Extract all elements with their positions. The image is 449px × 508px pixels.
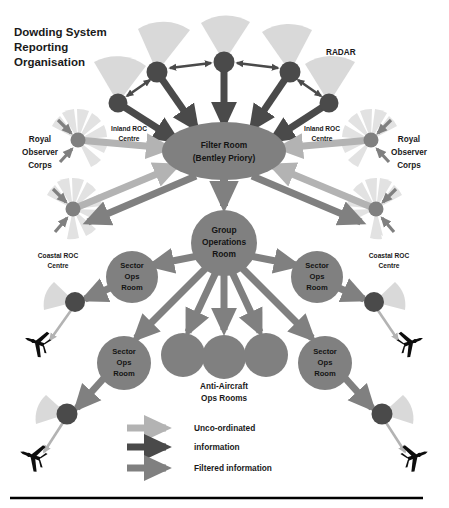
coastal-roc-right-line1: Coastal ROC: [369, 252, 410, 259]
filter-room-label-line2: (Bentley Priory): [193, 153, 256, 163]
page-title-line2: Reporting: [14, 41, 68, 53]
coastal-roc-node-right[interactable]: [369, 202, 384, 217]
legend-label-1: Unco-ordinated: [194, 423, 255, 433]
royal-observer-corps-left-line3: Corps: [28, 161, 52, 170]
sector-ops-3-line2: Ops: [117, 358, 132, 367]
radar-station-3[interactable]: [214, 52, 235, 73]
anti-aircraft-room-1[interactable]: [161, 333, 205, 377]
group-ops-label-line3: Room: [212, 249, 236, 259]
sector-ops-4-line3: Room: [314, 369, 336, 378]
diagram-canvas: Filter Room (Bentley Priory) Group Opera…: [0, 0, 449, 508]
airfield-node-2[interactable]: [57, 404, 78, 425]
sector-ops-3-line3: Room: [113, 369, 135, 378]
aircraft-icon-1: [21, 326, 54, 360]
inland-roc-right-line2: Centre: [312, 135, 333, 142]
royal-observer-corps-right-line2: Observer: [391, 148, 428, 157]
inland-roc-right-line1: Inland ROC: [304, 125, 340, 132]
coastal-roc-left-line1: Coastal ROC: [38, 252, 79, 259]
sector-ops-2-line1: Sector: [305, 261, 329, 270]
airfield-node-4[interactable]: [372, 404, 393, 425]
sector-ops-1-line1: Sector: [120, 261, 144, 270]
royal-observer-corps-right-line3: Corps: [397, 161, 421, 170]
legend: Unco-ordinated information Filtered info…: [127, 423, 272, 473]
inland-roc-node-right[interactable]: [364, 133, 379, 148]
legend-label-2: information: [194, 442, 240, 452]
radar-station-2[interactable]: [147, 62, 168, 83]
radar-station-1[interactable]: [109, 94, 128, 113]
filter-room-label-line1: Filter Room: [201, 140, 248, 150]
inland-roc-left-line2: Centre: [119, 135, 140, 142]
sector-ops-1-line2: Ops: [125, 272, 140, 281]
sector-ops-3-line1: Sector: [112, 347, 136, 356]
anti-aircraft-room-2[interactable]: [202, 335, 246, 379]
aircraft-icon-4: [398, 439, 432, 474]
filter-room-node[interactable]: Filter Room (Bentley Priory): [162, 122, 286, 180]
inland-roc-left-line1: Inland ROC: [111, 125, 147, 132]
page-title-line1: Dowding System: [14, 26, 107, 38]
anti-aircraft-label-line2: Ops Rooms: [201, 394, 247, 403]
legend-label-3: Filtered information: [194, 463, 272, 473]
group-ops-label-line2: Operations: [202, 237, 247, 247]
group-operations-room-node[interactable]: Group Operations Room: [191, 210, 257, 276]
airfield-node-1[interactable]: [65, 292, 85, 312]
royal-observer-corps-left-line1: Royal: [29, 135, 51, 144]
anti-aircraft-room-3[interactable]: [244, 333, 288, 377]
sector-ops-4-line1: Sector: [313, 347, 337, 356]
royal-observer-corps-right-line1: Royal: [398, 135, 420, 144]
aircraft-icon-3: [395, 326, 428, 360]
radar-label: RADAR: [326, 48, 356, 57]
sector-ops-1-line3: Room: [121, 283, 143, 292]
anti-aircraft-label-line1: Anti-Aircraft: [200, 382, 248, 391]
sector-ops-room-node-4[interactable]: Sector Ops Room: [298, 336, 352, 390]
sector-ops-4-line2: Ops: [318, 358, 333, 367]
anti-aircraft-ops-rooms[interactable]: [161, 333, 288, 379]
radar-station-4[interactable]: [280, 62, 301, 83]
dowding-system-diagram: Filter Room (Bentley Priory) Group Opera…: [0, 0, 449, 508]
coastal-roc-right-line2: Centre: [379, 262, 400, 269]
radar-station-5[interactable]: [320, 94, 339, 113]
coastal-roc-left-line2: Centre: [48, 262, 69, 269]
royal-observer-corps-left-line2: Observer: [22, 148, 59, 157]
page-title-line3: Organisation: [14, 56, 85, 68]
inland-roc-node-left[interactable]: [71, 133, 86, 148]
sector-ops-room-node-3[interactable]: Sector Ops Room: [97, 336, 151, 390]
sector-ops-room-node-2[interactable]: Sector Ops Room: [291, 251, 343, 303]
group-ops-label-line1: Group: [211, 225, 236, 235]
coastal-roc-node-left[interactable]: [66, 202, 81, 217]
sector-ops-2-line3: Room: [306, 283, 328, 292]
sector-ops-2-line2: Ops: [310, 272, 325, 281]
aircraft-icon-2: [16, 439, 50, 474]
airfield-node-3[interactable]: [364, 292, 384, 312]
sector-ops-room-node-1[interactable]: Sector Ops Room: [106, 251, 158, 303]
